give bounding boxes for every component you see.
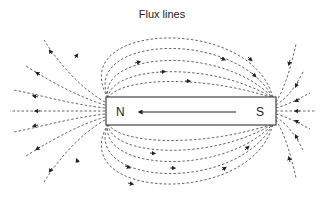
north-pole-label: N [116, 105, 125, 119]
south-pole-label: S [256, 105, 264, 119]
bar-magnet: N S [106, 97, 276, 125]
flux-diagram: N S [0, 0, 324, 203]
